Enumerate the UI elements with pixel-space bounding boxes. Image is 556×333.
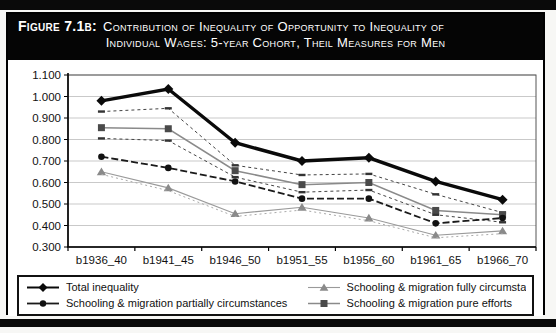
legend-label: Schooling & migration fully circumstance… xyxy=(347,281,526,293)
svg-text:b1941_45: b1941_45 xyxy=(143,254,194,266)
page-top-edge xyxy=(0,0,556,10)
square-series-marker-icon xyxy=(306,298,342,309)
svg-text:1.100: 1.100 xyxy=(32,69,61,81)
legend-item-total-inequality: Total inequality xyxy=(25,279,306,295)
legend-item-fully-circumstances: Schooling & migration fully circumstance… xyxy=(306,279,526,295)
figure-title-text: Contribution of Inequality of Opportunit… xyxy=(103,19,444,34)
svg-text:0.500: 0.500 xyxy=(32,198,61,210)
figure-title-line1: Figure 7.1b:Contribution of Inequality o… xyxy=(18,18,533,34)
figure-title-line2: Individual Wages: 5-year Cohort, Theil M… xyxy=(18,35,533,50)
svg-text:b1946_50: b1946_50 xyxy=(210,254,261,266)
x-axis-labels: b1936_40b1941_45b1946_50b1951_55b1956_60… xyxy=(76,254,528,266)
svg-text:0.700: 0.700 xyxy=(32,155,61,167)
svg-text:0.900: 0.900 xyxy=(32,112,61,124)
series-schooling-migration-fully-circumstances xyxy=(97,168,507,239)
page-bottom-rule xyxy=(0,319,556,327)
figure-title-bar: Figure 7.1b:Contribution of Inequality o… xyxy=(8,14,543,60)
chart-svg: 1.1001.0000.9000.8000.7000.6000.5000.400… xyxy=(8,63,543,274)
chart-area: 1.1001.0000.9000.8000.7000.6000.5000.400… xyxy=(8,60,543,316)
svg-text:b1936_40: b1936_40 xyxy=(76,254,127,266)
triangle-series-marker-icon xyxy=(306,282,342,293)
svg-text:0.800: 0.800 xyxy=(32,134,61,146)
circle-series-marker-icon xyxy=(25,298,61,309)
chart-legend: Total inequality Schooling & migration p… xyxy=(17,275,534,316)
svg-text:0.600: 0.600 xyxy=(32,177,61,189)
legend-item-pure-efforts: Schooling & migration pure efforts xyxy=(306,295,526,311)
legend-label: Schooling & migration pure efforts xyxy=(347,297,513,309)
legend-label: Total inequality xyxy=(66,281,139,293)
legend-label: Schooling & migration partially circumst… xyxy=(66,297,287,309)
svg-text:b1961_65: b1961_65 xyxy=(410,254,461,266)
svg-text:0.300: 0.300 xyxy=(32,241,61,253)
figure-label: Figure 7.1b: xyxy=(18,18,97,34)
legend-item-partially-circumstances: Schooling & migration partially circumst… xyxy=(25,295,306,311)
svg-text:b1956_60: b1956_60 xyxy=(343,254,394,266)
figure-7-1b: Figure 7.1b:Contribution of Inequality o… xyxy=(6,12,545,315)
svg-text:1.000: 1.000 xyxy=(32,91,61,103)
y-axis-labels: 1.1001.0000.9000.8000.7000.6000.5000.400… xyxy=(32,69,61,253)
svg-text:b1951_55: b1951_55 xyxy=(276,254,327,266)
svg-text:0.400: 0.400 xyxy=(32,220,61,232)
diamond-series-marker-icon xyxy=(25,282,61,293)
svg-text:b1966_70: b1966_70 xyxy=(477,254,528,266)
scanned-page: Figure 7.1b:Contribution of Inequality o… xyxy=(0,0,556,333)
